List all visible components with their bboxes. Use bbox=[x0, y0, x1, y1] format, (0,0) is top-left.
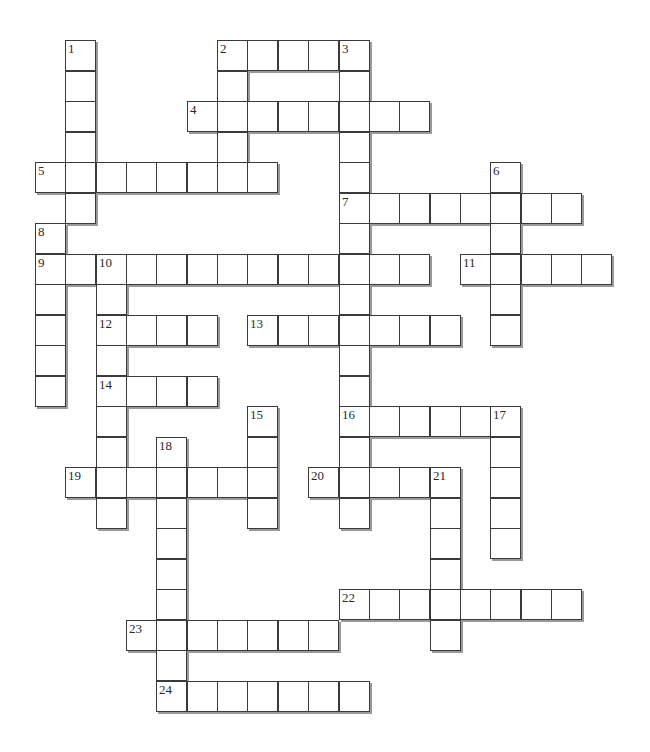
crossword-cell[interactable] bbox=[339, 376, 370, 407]
cell-letter-input[interactable] bbox=[127, 316, 156, 345]
crossword-cell[interactable]: 21 bbox=[430, 467, 461, 498]
crossword-cell[interactable] bbox=[278, 40, 309, 71]
cell-letter-input[interactable] bbox=[36, 316, 65, 345]
cell-letter-input[interactable] bbox=[279, 41, 308, 70]
cell-letter-input[interactable] bbox=[157, 377, 186, 406]
crossword-cell[interactable] bbox=[460, 406, 491, 437]
crossword-cell[interactable] bbox=[339, 467, 370, 498]
cell-letter-input[interactable] bbox=[522, 255, 551, 284]
cell-letter-input[interactable] bbox=[248, 438, 277, 467]
crossword-cell[interactable] bbox=[339, 223, 370, 254]
cell-letter-input[interactable] bbox=[309, 621, 338, 650]
crossword-cell[interactable] bbox=[278, 101, 309, 132]
crossword-cell[interactable] bbox=[35, 284, 66, 315]
crossword-cell[interactable] bbox=[430, 406, 461, 437]
crossword-cell[interactable] bbox=[369, 101, 400, 132]
cell-letter-input[interactable] bbox=[127, 163, 156, 192]
crossword-cell[interactable] bbox=[399, 406, 430, 437]
crossword-cell[interactable] bbox=[278, 620, 309, 651]
cell-letter-input[interactable] bbox=[431, 621, 460, 650]
cell-letter-input[interactable] bbox=[218, 682, 247, 711]
crossword-cell[interactable] bbox=[96, 406, 127, 437]
crossword-cell[interactable] bbox=[247, 162, 278, 193]
cell-letter-input[interactable] bbox=[248, 682, 277, 711]
crossword-cell[interactable] bbox=[187, 254, 218, 285]
cell-letter-input[interactable] bbox=[491, 590, 520, 619]
crossword-cell[interactable] bbox=[156, 528, 187, 559]
cell-letter-input[interactable] bbox=[157, 468, 186, 497]
cell-letter-input[interactable] bbox=[309, 682, 338, 711]
crossword-cell[interactable] bbox=[156, 467, 187, 498]
cell-letter-input[interactable] bbox=[340, 682, 369, 711]
crossword-cell[interactable] bbox=[65, 162, 96, 193]
crossword-cell[interactable] bbox=[126, 376, 157, 407]
cell-letter-input[interactable] bbox=[340, 316, 369, 345]
cell-letter-input[interactable] bbox=[491, 529, 520, 558]
crossword-cell[interactable] bbox=[399, 589, 430, 620]
cell-letter-input[interactable] bbox=[431, 407, 460, 436]
crossword-cell[interactable] bbox=[490, 193, 521, 224]
cell-letter-input[interactable] bbox=[127, 621, 156, 650]
crossword-cell[interactable] bbox=[490, 315, 521, 346]
crossword-cell[interactable] bbox=[187, 315, 218, 346]
crossword-cell[interactable]: 7 bbox=[339, 193, 370, 224]
crossword-cell[interactable] bbox=[308, 315, 339, 346]
crossword-cell[interactable] bbox=[156, 650, 187, 681]
crossword-cell[interactable] bbox=[156, 498, 187, 529]
cell-letter-input[interactable] bbox=[491, 285, 520, 314]
crossword-cell[interactable] bbox=[187, 681, 218, 712]
crossword-cell[interactable] bbox=[217, 254, 248, 285]
cell-letter-input[interactable] bbox=[157, 651, 186, 680]
cell-letter-input[interactable] bbox=[491, 163, 520, 192]
cell-letter-input[interactable] bbox=[36, 163, 65, 192]
cell-letter-input[interactable] bbox=[400, 316, 429, 345]
crossword-cell[interactable]: 4 bbox=[187, 101, 218, 132]
cell-letter-input[interactable] bbox=[248, 163, 277, 192]
crossword-cell[interactable]: 5 bbox=[35, 162, 66, 193]
cell-letter-input[interactable] bbox=[157, 682, 186, 711]
cell-letter-input[interactable] bbox=[157, 163, 186, 192]
cell-letter-input[interactable] bbox=[340, 285, 369, 314]
cell-letter-input[interactable] bbox=[66, 468, 95, 497]
crossword-cell[interactable] bbox=[521, 193, 552, 224]
cell-letter-input[interactable] bbox=[370, 590, 399, 619]
cell-letter-input[interactable] bbox=[491, 407, 520, 436]
cell-letter-input[interactable] bbox=[491, 468, 520, 497]
crossword-cell[interactable] bbox=[490, 223, 521, 254]
cell-letter-input[interactable] bbox=[491, 499, 520, 528]
cell-letter-input[interactable] bbox=[491, 438, 520, 467]
cell-letter-input[interactable] bbox=[66, 102, 95, 131]
cell-letter-input[interactable] bbox=[370, 407, 399, 436]
crossword-cell[interactable] bbox=[308, 620, 339, 651]
crossword-cell[interactable]: 12 bbox=[96, 315, 127, 346]
crossword-cell[interactable] bbox=[339, 315, 370, 346]
crossword-cell[interactable] bbox=[430, 559, 461, 590]
crossword-cell[interactable] bbox=[308, 254, 339, 285]
cell-letter-input[interactable] bbox=[248, 499, 277, 528]
cell-letter-input[interactable] bbox=[66, 163, 95, 192]
crossword-cell[interactable] bbox=[339, 254, 370, 285]
crossword-cell[interactable]: 19 bbox=[65, 467, 96, 498]
crossword-cell[interactable] bbox=[217, 132, 248, 163]
crossword-cell[interactable] bbox=[430, 498, 461, 529]
cell-letter-input[interactable] bbox=[188, 163, 217, 192]
crossword-cell[interactable] bbox=[217, 162, 248, 193]
crossword-cell[interactable] bbox=[217, 467, 248, 498]
crossword-cell[interactable] bbox=[96, 162, 127, 193]
cell-letter-input[interactable] bbox=[188, 468, 217, 497]
crossword-cell[interactable] bbox=[430, 528, 461, 559]
cell-letter-input[interactable] bbox=[431, 529, 460, 558]
cell-letter-input[interactable] bbox=[400, 590, 429, 619]
crossword-cell[interactable] bbox=[369, 193, 400, 224]
crossword-cell[interactable] bbox=[369, 406, 400, 437]
cell-letter-input[interactable] bbox=[66, 255, 95, 284]
crossword-cell[interactable] bbox=[35, 345, 66, 376]
cell-letter-input[interactable] bbox=[36, 285, 65, 314]
crossword-cell[interactable]: 8 bbox=[35, 223, 66, 254]
cell-letter-input[interactable] bbox=[248, 316, 277, 345]
crossword-cell[interactable] bbox=[369, 467, 400, 498]
crossword-cell[interactable] bbox=[339, 71, 370, 102]
cell-letter-input[interactable] bbox=[400, 194, 429, 223]
crossword-cell[interactable] bbox=[399, 101, 430, 132]
crossword-cell[interactable]: 10 bbox=[96, 254, 127, 285]
